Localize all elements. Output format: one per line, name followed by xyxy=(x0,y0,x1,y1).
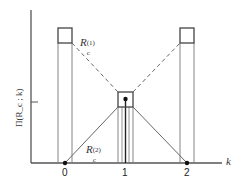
solid-curve-right xyxy=(133,107,187,163)
bar-k1 xyxy=(118,92,133,163)
y-axis-label: Π(R_c ; k) xyxy=(14,89,24,128)
label-rc1: R(1)c xyxy=(80,36,97,48)
box-k0 xyxy=(58,28,72,43)
label-rc2-sub: c xyxy=(93,156,96,164)
diagram-canvas xyxy=(0,0,244,189)
x-tick-1: 1 xyxy=(122,167,128,178)
point-k0 xyxy=(63,161,67,165)
bar-k2 xyxy=(180,28,194,163)
label-rc2-sup: (2) xyxy=(93,146,101,154)
x-axis-label: k xyxy=(226,155,231,167)
label-rc1-base: R xyxy=(80,36,87,48)
point-k2 xyxy=(185,161,189,165)
dashed-curve-left xyxy=(72,43,118,92)
point-k1 xyxy=(123,97,127,101)
x-tick-2: 2 xyxy=(184,167,190,178)
label-rc2: R(2)c xyxy=(86,143,103,155)
x-tick-0: 0 xyxy=(62,167,68,178)
bar-k0 xyxy=(58,28,72,163)
label-rc2-base: R xyxy=(86,143,93,155)
label-rc1-sup: (1) xyxy=(87,39,95,47)
label-rc1-sub: c xyxy=(87,49,90,57)
dashed-curve-right xyxy=(133,43,180,92)
box-k2 xyxy=(180,28,194,43)
